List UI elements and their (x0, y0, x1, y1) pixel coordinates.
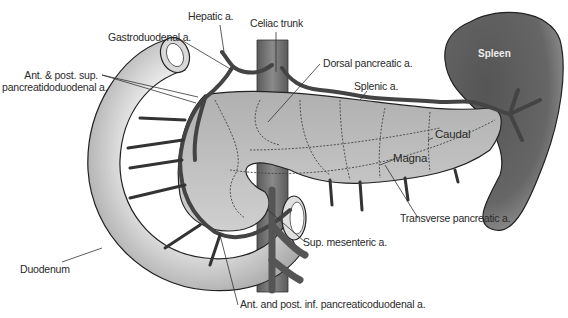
label-sup-pd-line2: pancreatidoduodenal a. (2, 81, 98, 93)
label-duodenum: Duodenum (20, 263, 70, 275)
label-splenic-artery: Splenic a. (354, 80, 398, 92)
label-sup-pd-line1: Ant. & post. sup. (8, 69, 98, 81)
label-dorsal-pancreatic-artery: Dorsal pancreatic a. (323, 57, 412, 69)
label-magna: Magna (393, 152, 427, 164)
label-hepatic-artery: Hepatic a. (188, 10, 233, 22)
label-transverse-pancreatic-artery: Transverse pancreatic a. (400, 212, 510, 224)
label-sup-mesenteric-artery: Sup. mesenteric a. (303, 236, 387, 248)
pancreas (178, 91, 501, 231)
label-spleen: Spleen (478, 48, 511, 59)
label-gastroduodenal-artery: Gastroduodenal a. (108, 31, 191, 43)
label-celiac-trunk: Celiac trunk (250, 17, 303, 29)
label-caudal: Caudal (435, 128, 470, 140)
label-inf-pancreaticoduodenal-artery: Ant. and post. inf. pancreaticoduodenal … (240, 298, 425, 310)
